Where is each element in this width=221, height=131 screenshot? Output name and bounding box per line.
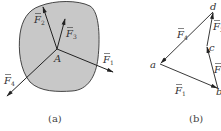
figure-a: F2 F3 F1 F4 A (a) [3,2,114,125]
polygon-label-f3: F3 [212,21,221,34]
polygon-label-f4: F4 [176,29,188,42]
svg-text:F2: F2 [213,64,221,76]
svg-text:F3: F3 [212,21,221,33]
polygon-f1-arrow [160,64,217,88]
vertex-a-label: a [150,59,156,70]
label-f4: F4 [3,75,15,88]
label-f1: F1 [102,54,114,67]
polygon-label-f2: F2 [213,64,221,77]
svg-text:F4: F4 [176,29,188,41]
force-diagram: F2 F3 F1 F4 A (a) a b c d [0,0,221,131]
figure-b: a b c d F4 F3 F2 F1 (b) [150,1,221,124]
polygon-label-f1: F1 [174,85,186,98]
point-a-label: A [53,53,61,64]
caption-b: (b) [189,113,203,124]
vertex-b-label: b [216,86,221,97]
svg-text:F1: F1 [102,54,114,66]
rigid-body-shape [19,2,99,92]
svg-text:F1: F1 [174,85,186,97]
caption-a: (a) [48,113,62,124]
svg-text:F4: F4 [3,75,15,87]
vertex-c-label: c [209,42,215,53]
vertex-d-label: d [210,1,216,12]
